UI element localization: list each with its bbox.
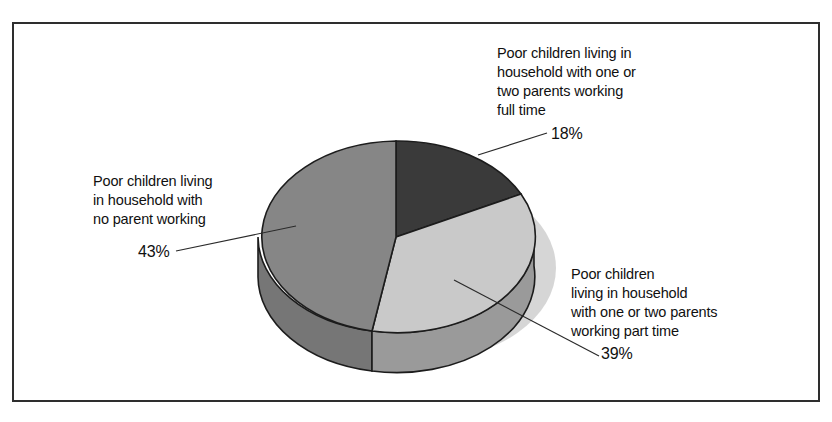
slice-value-no-parent-working: 43% (138, 243, 169, 261)
slice-value-part-time: 39% (601, 345, 632, 363)
slice-value-full-time: 18% (551, 125, 582, 143)
pie-chart-figure: Poor children living in household with o… (0, 0, 832, 422)
slice-label-part-time: Poor children living in household with o… (571, 265, 786, 341)
slice-label-full-time: Poor children living in household with o… (497, 44, 707, 120)
slice-label-no-parent-working: Poor children living in household with n… (93, 172, 293, 229)
leader-line-full-time (478, 133, 547, 155)
